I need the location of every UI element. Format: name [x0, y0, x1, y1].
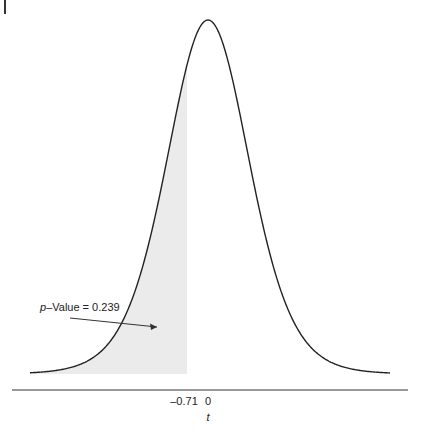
p-value-text: –Value = 0.239	[46, 301, 120, 313]
density-curve	[30, 20, 390, 373]
tick-label-zero: 0	[205, 395, 211, 407]
t-distribution-chart: –0.71 0 t p–Value = 0.239	[0, 0, 423, 434]
p-italic: p	[39, 301, 46, 313]
x-axis-label: t	[206, 411, 210, 423]
tick-label-neg-0-71: –0.71	[170, 395, 198, 407]
p-value-annotation: p–Value = 0.239	[39, 301, 120, 313]
p-value-shaded-area	[30, 65, 187, 374]
